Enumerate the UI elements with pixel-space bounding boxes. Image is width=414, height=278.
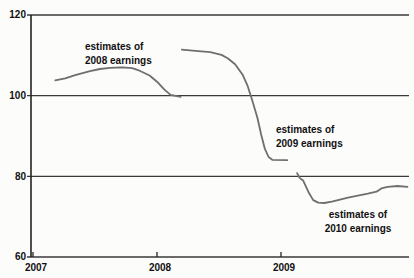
plot-canvas (0, 0, 414, 278)
annotation-line: estimates of (85, 41, 143, 52)
annotation-2008-earnings: estimates of 2008 earnings (85, 40, 152, 68)
annotation-line: estimates of (276, 124, 334, 135)
annotation-line: 2010 earnings (325, 223, 392, 234)
x-tick-label-2008: 2008 (140, 262, 180, 273)
x-tick-label-2007: 2007 (16, 262, 56, 273)
series-lines (55, 50, 407, 203)
y-tick-label-100: 100 (0, 91, 26, 101)
annotation-2009-earnings: estimates of 2009 earnings (276, 123, 343, 151)
y-tick-label-60: 60 (0, 252, 26, 262)
annotation-line: 2009 earnings (276, 138, 343, 149)
x-tick-label-2009: 2009 (264, 262, 304, 273)
y-tick-label-120: 120 (0, 10, 26, 20)
series-estimates-of-2010-earnings (297, 173, 407, 203)
annotation-line: estimates of (329, 209, 387, 220)
annotation-2010-earnings: estimates of 2010 earnings (325, 208, 392, 236)
axes (31, 15, 281, 257)
y-tick-label-80: 80 (0, 172, 26, 182)
earnings-estimates-chart: S&P 500 Next Year Earnings Estimates 120… (0, 0, 414, 278)
annotation-line: 2008 earnings (85, 55, 152, 66)
series-estimates-of-2008-earnings (55, 67, 180, 97)
series-estimates-of-2009-earnings (182, 50, 287, 161)
